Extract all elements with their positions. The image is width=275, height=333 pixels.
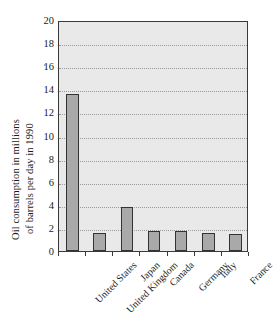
scan-artifact-speck [263, 268, 266, 271]
x-axis-tick-label: France [248, 260, 274, 286]
oil-consumption-bar-chart: Oil consumption in millions of barrels p… [0, 0, 275, 333]
scan-artifact-speck-2 [44, 64, 46, 66]
x-axis-tick-labels: United StatesUnited KingdomJapanCanadaGe… [0, 0, 275, 333]
